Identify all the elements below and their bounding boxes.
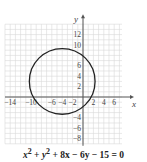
svg-text:12: 12 bbox=[74, 30, 82, 39]
svg-text:−2: −2 bbox=[69, 98, 77, 107]
svg-text:−4: −4 bbox=[58, 98, 66, 107]
svg-text:6: 6 bbox=[112, 98, 116, 107]
svg-text:−14: −14 bbox=[4, 98, 16, 107]
svg-text:4: 4 bbox=[77, 72, 81, 81]
x-axis-label: x bbox=[131, 99, 136, 109]
svg-text:6: 6 bbox=[77, 61, 81, 70]
circle-graph: −14−10−6−4−22461210642−4−6−8 x y bbox=[0, 0, 147, 148]
svg-text:4: 4 bbox=[102, 98, 106, 107]
y-axis-label: y bbox=[73, 14, 78, 24]
svg-text:−6: −6 bbox=[73, 124, 81, 133]
svg-text:2: 2 bbox=[77, 82, 81, 91]
svg-text:−4: −4 bbox=[73, 113, 81, 122]
axes bbox=[5, 14, 134, 146]
caption-rest: + 8x − 6y − 15 = 0 bbox=[50, 150, 124, 160]
svg-text:10: 10 bbox=[74, 41, 82, 50]
grid bbox=[5, 24, 122, 144]
svg-text:2: 2 bbox=[92, 98, 96, 107]
equation-caption: x2 + y2 + 8x − 6y − 15 = 0 bbox=[0, 147, 147, 160]
caption-plus: + bbox=[32, 150, 42, 160]
svg-text:−6: −6 bbox=[48, 98, 56, 107]
svg-text:−8: −8 bbox=[73, 134, 81, 143]
